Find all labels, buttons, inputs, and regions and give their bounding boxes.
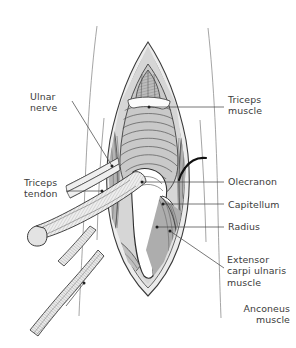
label-extensor-carpi-ulnaris-muscle: Extensor carpi ulnaris muscle <box>227 254 286 288</box>
label-anconeus-muscle: Anconeus muscle <box>243 303 290 326</box>
leader-dot-ulnar-nerve <box>111 165 114 168</box>
label-ulnar-nerve: Ulnar nerve <box>30 91 57 114</box>
label-capitellum: Capitellum <box>228 199 280 210</box>
leader-dot-extensor-carpi-ulnaris-muscle <box>169 230 172 233</box>
leader-dot-anconeus-muscle <box>83 282 86 285</box>
figure-container: (c) <box>0 0 296 348</box>
anatomy-illustration <box>0 0 296 348</box>
leader-dot-triceps-muscle <box>148 106 151 109</box>
label-triceps-muscle: Triceps muscle <box>228 94 262 117</box>
tendon-cut-end <box>27 226 47 246</box>
leader-dot-triceps-tendon <box>101 190 104 193</box>
leader-dot-olecranon <box>141 181 144 184</box>
label-olecranon: Olecranon <box>228 176 277 187</box>
leader-dot-capitellum <box>162 203 165 206</box>
label-radius: Radius <box>228 221 260 232</box>
label-triceps-tendon: Triceps tendon <box>24 177 58 200</box>
leader-dot-radius <box>156 226 159 229</box>
